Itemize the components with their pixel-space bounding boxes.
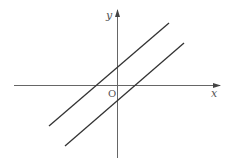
upper-line <box>49 23 169 126</box>
coordinate-diagram: y x O <box>0 0 230 166</box>
origin-label: O <box>108 88 116 99</box>
lower-line <box>65 43 184 146</box>
x-axis-label: x <box>211 87 218 100</box>
y-axis-label: y <box>105 9 113 22</box>
